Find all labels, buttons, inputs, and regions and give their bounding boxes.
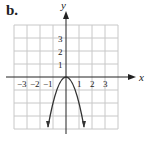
- svg-text:−1: −1: [43, 79, 53, 89]
- svg-text:1: 1: [58, 60, 63, 70]
- svg-text:1: 1: [77, 79, 82, 89]
- svg-text:−3: −3: [17, 79, 27, 89]
- svg-text:3: 3: [58, 34, 63, 44]
- svg-text:−2: −2: [30, 79, 40, 89]
- svg-text:3: 3: [103, 79, 108, 89]
- svg-text:2: 2: [90, 79, 95, 89]
- svg-text:y: y: [60, 0, 66, 11]
- svg-text:x: x: [138, 71, 144, 83]
- y-axis-arrow-icon: [63, 11, 69, 19]
- arrow-right-icon: [82, 121, 86, 128]
- svg-text:2: 2: [58, 47, 63, 57]
- x-axis-arrow-icon: [128, 74, 136, 80]
- arrow-left-icon: [46, 121, 50, 128]
- graph: x y −3−2−1 123 321: [0, 0, 149, 145]
